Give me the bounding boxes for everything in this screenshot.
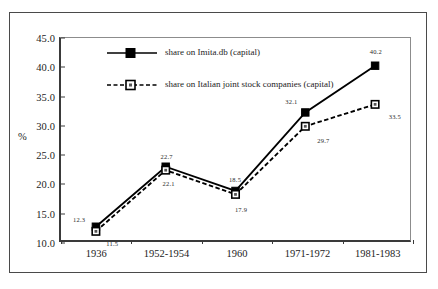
data-point-value-label: 17.9 (235, 205, 247, 212)
legend-swatch-solid-filled-square (105, 47, 159, 59)
data-point-value-label: 40.2 (370, 48, 382, 55)
data-point-value-label: 22.7 (161, 152, 173, 159)
x-tick-label: 1936 (86, 248, 107, 259)
legend-swatch-dashed-open-square (105, 79, 159, 91)
legend-item-italian-joint-stock: share on Italian joint stock companies (… (105, 79, 333, 91)
legend-label-imita: share on Imita.db (capital) (165, 47, 260, 59)
data-point-value-label: 29.7 (317, 136, 329, 143)
y-tick-label: 15.0 (36, 208, 61, 219)
x-tick-mark (272, 240, 273, 244)
y-tick-label: 10.0 (36, 238, 61, 249)
data-point-value-label: 33.5 (389, 113, 401, 120)
chart-figure: % 10.015.020.025.030.035.040.045.0 19361… (0, 0, 438, 289)
y-tick-label: 20.0 (36, 179, 61, 190)
x-tick-label: 1952-1954 (144, 248, 190, 259)
x-tick-mark (61, 240, 62, 244)
x-tick-mark (413, 240, 414, 244)
data-point-value-label: 12.3 (73, 215, 85, 222)
y-tick-label: 40.0 (36, 62, 61, 73)
x-tick-mark (202, 240, 203, 244)
data-point-marker-core (95, 230, 98, 233)
x-tick-mark (131, 240, 132, 244)
y-tick-label: 30.0 (36, 120, 61, 131)
x-tick-label: 1981-1983 (355, 248, 401, 259)
data-point-marker-core (164, 169, 167, 172)
data-point-value-label: 22.1 (163, 180, 175, 187)
y-tick-label: 25.0 (36, 150, 61, 161)
y-tick-label: 35.0 (36, 91, 61, 102)
data-point-marker-core (304, 125, 307, 128)
data-point-marker (371, 62, 378, 69)
data-point-value-label: 11.5 (106, 240, 118, 247)
y-tick-label: 45.0 (36, 33, 61, 44)
y-axis-unit-label: % (18, 131, 27, 142)
data-point-marker-core (234, 193, 237, 196)
x-tick-mark (343, 240, 344, 244)
legend-label-italian-joint-stock: share on Italian joint stock companies (… (165, 79, 333, 91)
series-line (96, 104, 375, 231)
x-tick-label: 1971-1972 (285, 248, 331, 259)
chart-legend: share on Imita.db (capital) share on Ita… (105, 47, 333, 111)
legend-item-imita: share on Imita.db (capital) (105, 47, 333, 59)
data-point-value-label: 18.5 (229, 176, 241, 183)
x-tick-label: 1960 (227, 248, 248, 259)
data-point-marker-core (374, 103, 377, 106)
plot-area: 10.015.020.025.030.035.040.045.0 1936195… (59, 37, 411, 242)
